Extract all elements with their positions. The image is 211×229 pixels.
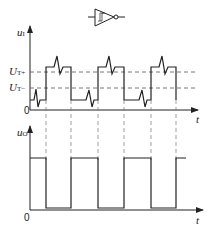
input-origin: 0 xyxy=(24,106,30,116)
input-x-label: t xyxy=(196,114,199,125)
waveform-diagram xyxy=(0,0,211,229)
input-y-label: uI xyxy=(17,27,25,38)
threshold-lines xyxy=(30,72,196,88)
output-x-label: t xyxy=(196,215,199,226)
input-waveform xyxy=(30,56,176,107)
edge-guides xyxy=(46,100,176,160)
ut-plus-label: UT+ xyxy=(9,66,25,77)
output-axes xyxy=(30,126,203,210)
ut-minus-label: UT− xyxy=(9,82,25,93)
schmitt-inverter-icon xyxy=(88,9,125,26)
output-origin: 0 xyxy=(24,213,30,223)
output-waveform xyxy=(30,158,186,208)
output-y-label: uO xyxy=(17,127,28,138)
